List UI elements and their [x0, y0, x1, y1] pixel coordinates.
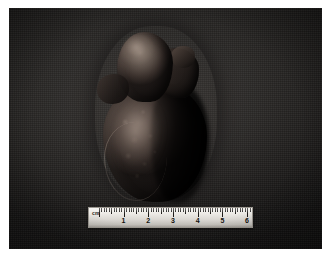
ruler-tick	[225, 208, 226, 212]
ruler-tick	[138, 208, 139, 212]
ruler-numeral-5: 5	[220, 216, 224, 226]
ruler-tick	[136, 208, 137, 214]
ruler-tick	[190, 208, 191, 212]
ruler-tick	[185, 208, 186, 214]
ruler-tick	[141, 208, 142, 212]
ruler-tick	[106, 208, 107, 212]
left-appendage-nub	[97, 74, 129, 104]
ruler-tick	[104, 208, 105, 212]
ruler-tick	[131, 208, 132, 212]
ruler-tick	[109, 208, 110, 212]
ruler-tick	[121, 208, 122, 212]
ruler-unit-label: cm	[92, 210, 100, 216]
ruler-numeral-4: 4	[196, 216, 200, 226]
ruler-tick	[195, 208, 196, 212]
ruler-tick	[235, 208, 236, 214]
ruler-tick	[180, 208, 181, 212]
ruler-numeral-3: 3	[171, 216, 175, 226]
ruler-tick	[153, 208, 154, 212]
ruler-tick	[111, 208, 112, 214]
ruler-tick	[175, 208, 176, 212]
ruler-tick	[151, 208, 152, 212]
ruler-tick	[205, 208, 206, 212]
ruler-tick	[163, 208, 164, 212]
ruler-tick	[230, 208, 231, 212]
ruler-tick	[200, 208, 201, 212]
ruler-tick	[210, 208, 211, 214]
ruler-numeral-6: 6	[245, 216, 249, 226]
ruler-tick	[220, 208, 221, 212]
ruler-numeral-2: 2	[146, 216, 150, 226]
ruler-tick	[215, 208, 216, 212]
ruler-tick	[217, 208, 218, 212]
ruler-tick	[242, 208, 243, 212]
ruler-tick	[119, 208, 120, 212]
ruler-tick	[250, 208, 251, 212]
ruler-numeral-1: 1	[122, 216, 126, 226]
ruler-tick	[114, 208, 115, 212]
ruler-tick	[245, 208, 246, 212]
ruler-tick	[133, 208, 134, 212]
ruler-tick	[193, 208, 194, 212]
ruler-tick	[188, 208, 189, 212]
ruler-tick	[146, 208, 147, 212]
ruler-tick	[156, 208, 157, 212]
ruler-tick	[203, 208, 204, 212]
ruler-tick	[168, 208, 169, 212]
ruler-tick	[212, 208, 213, 212]
ruler-tick	[237, 208, 238, 212]
ruler-tick	[232, 208, 233, 212]
ruler-tick	[126, 208, 127, 212]
ruler-tick	[158, 208, 159, 212]
centimeter-ruler: 123456 cm	[88, 207, 253, 228]
ruler-tick	[116, 208, 117, 212]
specimen-photo-page: 123456 cm	[0, 0, 334, 258]
ruler-tick	[129, 208, 130, 212]
ruler-tick	[240, 208, 241, 212]
ruler-tick	[143, 208, 144, 212]
ruler-tick	[161, 208, 162, 214]
gross-specimen-photograph: 123456 cm	[9, 8, 322, 249]
ruler-tick	[208, 208, 209, 212]
ruler-tick	[171, 208, 172, 212]
ruler-tick	[166, 208, 167, 212]
great-vessel-stump-tip	[171, 46, 195, 68]
ruler-tick	[183, 208, 184, 212]
ruler-tick	[178, 208, 179, 212]
ruler-tick	[227, 208, 228, 212]
ruler-tick	[101, 208, 102, 212]
ruler-numerals: 123456	[89, 216, 252, 227]
heart-specimen	[95, 26, 217, 202]
